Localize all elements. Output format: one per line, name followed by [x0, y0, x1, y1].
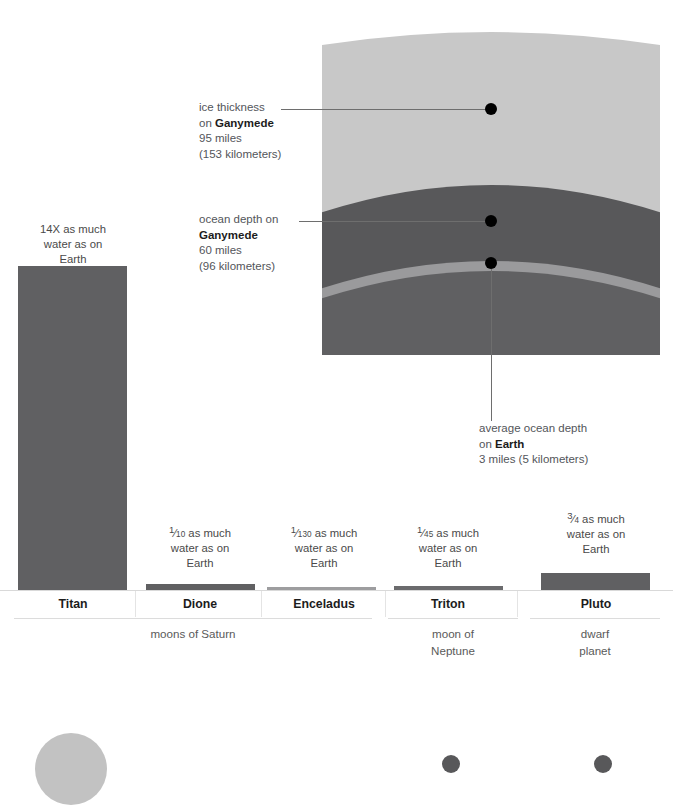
annotation-prefix: on: [199, 117, 215, 129]
group-rule-dwarf: [530, 618, 660, 619]
bar-caption-c: Earth: [18, 252, 128, 267]
annotation-line-1: ocean depth on: [199, 212, 303, 228]
annotation-body-name: Ganymede: [199, 229, 258, 241]
bar-titan: [18, 266, 127, 590]
annotation-line-3: 3 miles (5 kilometers): [479, 452, 669, 468]
bar-value-number: 14X: [40, 223, 60, 235]
group-label-moon-of-neptune: moon of Neptune: [388, 625, 518, 659]
group-label-dwarf-planet: dwarf planet: [530, 625, 660, 659]
axis-label-pluto: Pluto: [541, 597, 651, 611]
annotation-prefix: on: [479, 438, 495, 450]
bar-value-denominator: 45: [424, 530, 433, 539]
tick-divider-2: [261, 591, 262, 617]
bar-value-titan: 14X as much: [18, 222, 128, 237]
axis-label-dione: Dione: [145, 597, 255, 611]
marker-dot-ocean-depth: [485, 215, 497, 227]
bar-caption-c: Earth: [541, 542, 651, 557]
annotation-line-1: ice thickness: [199, 100, 299, 116]
group-label-line-1: dwarf: [530, 625, 660, 642]
bar-caption-a: as much: [582, 513, 625, 525]
tick-divider-4: [517, 591, 518, 617]
group-rule-saturn: [14, 618, 372, 619]
bar-caption-c: Earth: [265, 556, 383, 571]
bar-caption-enceladus: 1⁄130 as much water as on Earth: [265, 526, 383, 571]
leader-line-ice-thickness: [281, 109, 487, 110]
bar-caption-titan: 14X as much water as on Earth: [18, 222, 128, 267]
bar-caption-c: Earth: [145, 556, 255, 571]
annotation-body-name: Earth: [495, 438, 524, 450]
bar-value-denominator: 10: [176, 530, 185, 539]
bar-caption-a: as much: [188, 527, 231, 539]
axis-label-titan: Titan: [18, 597, 128, 611]
annotation-line-3: 95 miles: [199, 131, 299, 147]
leader-line-ocean-depth: [299, 221, 487, 222]
axis-label-triton: Triton: [393, 597, 503, 611]
group-label-moons-of-saturn: moons of Saturn: [14, 625, 372, 642]
group-label-line-2: Neptune: [388, 642, 518, 659]
annotation-average-ocean-depth-earth: average ocean depth on Earth 3 miles (5 …: [479, 421, 669, 468]
tick-divider-3: [385, 591, 386, 617]
bar-value-triton: 1⁄45 as much: [393, 526, 503, 541]
bar-caption-b: water as on: [145, 541, 255, 556]
annotation-line-2: on Ganymede: [199, 116, 299, 132]
bar-caption-b: water as on: [393, 541, 503, 556]
bar-value-denominator: 130: [298, 530, 312, 539]
bar-caption-c: Earth: [393, 556, 503, 571]
group-rule-neptune: [388, 618, 518, 619]
leader-line-earth-ocean-depth: [491, 269, 492, 421]
annotation-ocean-depth-ganymede: ocean depth on Ganymede 60 miles (96 kil…: [199, 212, 303, 274]
chart-baseline: [0, 590, 673, 591]
bar-caption-b: water as on: [18, 237, 128, 252]
bar-value-enceladus: 1⁄130 as much: [265, 526, 383, 541]
annotation-line-4: (153 kilometers): [199, 147, 299, 163]
group-label-line-2: planet: [530, 642, 660, 659]
tick-divider-1: [135, 591, 136, 617]
body-circle-small-partial-2: [594, 755, 612, 773]
marker-dot-earth-ocean-depth: [485, 257, 497, 269]
annotation-ice-thickness-ganymede: ice thickness on Ganymede 95 miles (153 …: [199, 100, 299, 162]
bar-pluto: [541, 573, 650, 590]
bar-caption-b: water as on: [265, 541, 383, 556]
body-circle-large-partial: [35, 733, 107, 805]
bar-value-denominator: 4: [574, 516, 579, 525]
bar-value-pluto: 3⁄4 as much: [541, 512, 651, 527]
bar-caption-b: water as on: [541, 527, 651, 542]
annotation-line-2: Ganymede: [199, 228, 303, 244]
headline-fragment: seas on Earth.: [420, 0, 660, 3]
group-label-line-1: moon of: [388, 625, 518, 642]
marker-dot-ice-thickness: [485, 103, 497, 115]
annotation-line-4: (96 kilometers): [199, 259, 303, 275]
bar-caption-a: as much: [436, 527, 479, 539]
body-circle-small-partial-1: [442, 755, 460, 773]
annotation-line-2: on Earth: [479, 437, 669, 453]
annotation-line-3: 60 miles: [199, 243, 303, 259]
bar-caption-triton: 1⁄45 as much water as on Earth: [393, 526, 503, 571]
annotation-line-1: average ocean depth: [479, 421, 669, 437]
axis-label-enceladus: Enceladus: [265, 597, 383, 611]
bar-caption-a: as much: [315, 527, 358, 539]
bar-caption-a: as much: [63, 223, 106, 235]
bar-caption-dione: 1⁄10 as much water as on Earth: [145, 526, 255, 571]
bar-caption-pluto: 3⁄4 as much water as on Earth: [541, 512, 651, 557]
annotation-body-name: Ganymede: [215, 117, 274, 129]
bar-value-dione: 1⁄10 as much: [145, 526, 255, 541]
